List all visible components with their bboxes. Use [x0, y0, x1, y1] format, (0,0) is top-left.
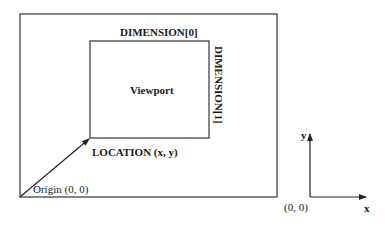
location-label: LOCATION (x, y) [92, 147, 178, 158]
dimension-1-label: DIMENSION[1] [213, 46, 224, 124]
y-axis-label: y [301, 130, 307, 141]
origin-label: Origin (0, 0) [33, 184, 88, 195]
viewport-label: Viewport [130, 85, 174, 96]
axes-origin-label: (0, 0) [284, 202, 308, 213]
x-axis-label: x [364, 203, 370, 214]
dimension-0-label: DIMENSION[0] [120, 27, 198, 38]
